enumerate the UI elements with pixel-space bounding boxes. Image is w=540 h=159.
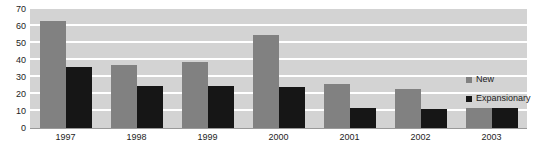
x-axis-tick-label: 2001 bbox=[339, 133, 359, 142]
bar-group bbox=[324, 9, 376, 128]
x-axis-tick-label: 1999 bbox=[197, 133, 217, 142]
y-axis-tick-label: 60 bbox=[16, 22, 26, 31]
bar-expansionary-1997 bbox=[66, 67, 92, 128]
bar-new-1997 bbox=[40, 21, 66, 128]
bar-group bbox=[111, 9, 163, 128]
square-swatch-icon bbox=[466, 96, 472, 102]
bar-new-2002 bbox=[395, 89, 421, 128]
x-axis: 1997199819992000200120022003 bbox=[30, 131, 527, 151]
bar-expansionary-2002 bbox=[421, 109, 447, 128]
legend-item[interactable]: New bbox=[466, 70, 540, 89]
chart-title bbox=[30, 0, 450, 3]
y-axis-tick-label: 30 bbox=[16, 73, 26, 82]
bar-expansionary-1999 bbox=[208, 86, 234, 129]
y-axis-tick-label: 10 bbox=[16, 107, 26, 116]
bar-new-2001 bbox=[324, 84, 350, 128]
bars-layer bbox=[30, 9, 527, 128]
axis-baseline bbox=[30, 128, 527, 129]
bar-group bbox=[40, 9, 92, 128]
y-axis-tick-label: 20 bbox=[16, 90, 26, 99]
bar-expansionary-1998 bbox=[137, 86, 163, 129]
y-axis: 010203040506070 bbox=[0, 9, 26, 128]
bar-expansionary-2003 bbox=[492, 108, 518, 128]
bar-group bbox=[395, 9, 447, 128]
bar-new-1998 bbox=[111, 65, 137, 128]
bar-group bbox=[182, 9, 234, 128]
bar-group bbox=[466, 9, 518, 128]
x-axis-tick-label: 2003 bbox=[481, 133, 501, 142]
legend-item-label: Expansionary bbox=[476, 94, 531, 103]
y-axis-tick-label: 70 bbox=[16, 5, 26, 14]
legend-item[interactable]: Expansionary bbox=[466, 89, 540, 108]
y-axis-tick-label: 0 bbox=[21, 124, 26, 133]
legend-item-label: New bbox=[476, 75, 494, 84]
square-swatch-icon bbox=[466, 77, 472, 83]
chart-legend: NewExpansionary bbox=[466, 70, 540, 108]
bar-expansionary-2001 bbox=[350, 108, 376, 128]
bar-new-2000 bbox=[253, 35, 279, 129]
bar-new-2003 bbox=[466, 108, 492, 128]
x-axis-tick-label: 2000 bbox=[268, 133, 288, 142]
bar-new-1999 bbox=[182, 62, 208, 128]
x-axis-tick-label: 2002 bbox=[410, 133, 430, 142]
bar-group bbox=[253, 9, 305, 128]
y-axis-tick-label: 50 bbox=[16, 39, 26, 48]
bar-expansionary-2000 bbox=[279, 87, 305, 128]
x-axis-tick-label: 1998 bbox=[126, 133, 146, 142]
bar-chart: 010203040506070 199719981999200020012002… bbox=[0, 0, 540, 159]
y-axis-tick-label: 40 bbox=[16, 56, 26, 65]
x-axis-tick-label: 1997 bbox=[55, 133, 75, 142]
